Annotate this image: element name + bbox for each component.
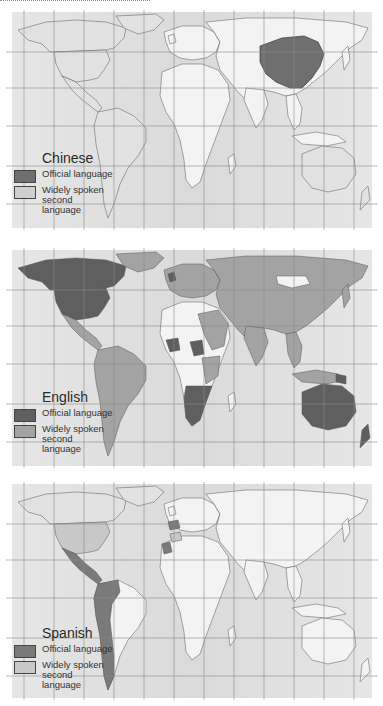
legend-item-official: Official language [14,408,113,422]
legend-item-second: Widely spoken second language [14,185,113,215]
second-language-swatch [14,186,36,199]
official-swatch [14,645,36,658]
legend-label: Official language [42,169,113,179]
legend-title: Spanish [42,625,113,641]
official-swatch [14,170,36,183]
chinese-language-map: Chinese Official language Widely spoken … [6,8,378,232]
legend-item-official: Official language [14,644,113,658]
map-legend: Spanish Official language Widely spoken … [14,625,113,692]
legend-item-second: Widely spoken second language [14,660,113,690]
second-language-swatch [14,661,36,674]
english-language-map: English Official language Widely spoken … [6,246,378,470]
legend-item-second: Widely spoken second language [14,424,113,454]
legend-label: Official language [42,644,113,654]
legend-label: Official language [42,408,113,418]
map-legend: Chinese Official language Widely spoken … [14,150,113,217]
legend-label: Widely spoken second language [42,185,112,215]
legend-title: English [42,389,113,405]
official-swatch [14,409,36,422]
dotted-top-border [0,0,150,2]
legend-item-official: Official language [14,169,113,183]
legend-title: Chinese [42,150,113,166]
map-legend: English Official language Widely spoken … [14,389,113,456]
legend-label: Widely spoken second language [42,424,112,454]
second-language-swatch [14,425,36,438]
spanish-language-map: Spanish Official language Widely spoken … [6,480,378,702]
legend-label: Widely spoken second language [42,660,112,690]
